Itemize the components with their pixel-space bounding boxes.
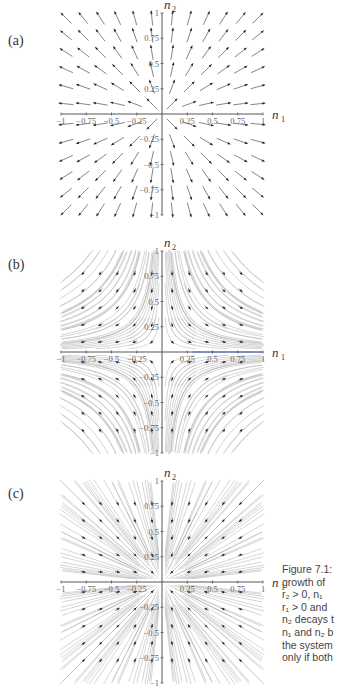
svg-text:2: 2 bbox=[172, 243, 176, 252]
svg-text:2: 2 bbox=[172, 5, 176, 14]
svg-text:0.75: 0.75 bbox=[144, 33, 159, 43]
svg-text:−0.75: −0.75 bbox=[76, 116, 96, 126]
svg-text:−0.5: −0.5 bbox=[144, 628, 159, 638]
svg-text:n: n bbox=[272, 107, 279, 122]
svg-text:0.75: 0.75 bbox=[230, 354, 245, 364]
svg-text:2: 2 bbox=[172, 473, 176, 482]
svg-text:−0.75: −0.75 bbox=[76, 584, 96, 594]
svg-text:1: 1 bbox=[155, 8, 159, 18]
caption-line: growth of bbox=[282, 576, 350, 589]
svg-text:0.5: 0.5 bbox=[148, 59, 159, 69]
svg-text:1: 1 bbox=[155, 246, 159, 256]
caption-line: r₁ > 0 and bbox=[282, 601, 350, 614]
svg-text:−0.25: −0.25 bbox=[127, 116, 147, 126]
svg-text:0.75: 0.75 bbox=[144, 501, 159, 511]
svg-text:0.75: 0.75 bbox=[230, 584, 245, 594]
svg-text:−0.25: −0.25 bbox=[127, 584, 147, 594]
svg-text:0.25: 0.25 bbox=[180, 116, 195, 126]
caption-line: n₂ decays t bbox=[282, 613, 350, 626]
svg-text:0.5: 0.5 bbox=[207, 116, 218, 126]
svg-text:−0.75: −0.75 bbox=[76, 354, 96, 364]
svg-text:−0.25: −0.25 bbox=[139, 134, 159, 144]
svg-text:−0.25: −0.25 bbox=[139, 372, 159, 382]
caption-line: n₁ and n₂ b bbox=[282, 626, 350, 639]
svg-text:n: n bbox=[164, 235, 171, 250]
svg-text:0.5: 0.5 bbox=[148, 527, 159, 537]
svg-text:1: 1 bbox=[281, 353, 285, 362]
caption-line: Figure 7.1: bbox=[282, 563, 350, 576]
svg-text:−0.75: −0.75 bbox=[139, 653, 159, 663]
svg-text:−0.25: −0.25 bbox=[139, 602, 159, 612]
svg-text:0.25: 0.25 bbox=[144, 84, 159, 94]
svg-text:0.75: 0.75 bbox=[144, 271, 159, 281]
svg-text:−1: −1 bbox=[150, 210, 159, 220]
caption-line: r₂ > 0, n₁ bbox=[282, 588, 350, 601]
caption-line: the system bbox=[282, 639, 350, 652]
caption-line: only if both bbox=[282, 651, 350, 664]
svg-text:1: 1 bbox=[261, 116, 265, 126]
svg-text:−1: −1 bbox=[56, 116, 65, 126]
svg-text:n: n bbox=[272, 345, 279, 360]
svg-text:−0.5: −0.5 bbox=[144, 398, 159, 408]
svg-text:−1: −1 bbox=[56, 584, 65, 594]
svg-text:0.25: 0.25 bbox=[180, 354, 195, 364]
svg-text:−0.5: −0.5 bbox=[104, 354, 119, 364]
svg-text:−0.5: −0.5 bbox=[144, 160, 159, 170]
vector-field-plot-a: −1−0.75−0.5−0.250.250.50.75110.750.50.25… bbox=[0, 0, 350, 229]
svg-text:1: 1 bbox=[155, 476, 159, 486]
svg-text:−0.25: −0.25 bbox=[127, 354, 147, 364]
svg-text:0.25: 0.25 bbox=[144, 322, 159, 332]
svg-text:n: n bbox=[272, 575, 279, 590]
vector-field-plot-b: −1−0.75−0.5−0.250.250.50.75110.750.50.25… bbox=[0, 237, 350, 467]
svg-text:0.25: 0.25 bbox=[144, 552, 159, 562]
svg-text:0.75: 0.75 bbox=[230, 116, 245, 126]
svg-text:−1: −1 bbox=[56, 354, 65, 364]
svg-text:0.25: 0.25 bbox=[180, 584, 195, 594]
svg-text:−0.5: −0.5 bbox=[104, 584, 119, 594]
svg-text:−1: −1 bbox=[150, 678, 159, 688]
svg-text:−0.5: −0.5 bbox=[104, 116, 119, 126]
svg-text:0.5: 0.5 bbox=[207, 354, 218, 364]
svg-text:−0.75: −0.75 bbox=[139, 423, 159, 433]
svg-text:1: 1 bbox=[281, 115, 285, 124]
svg-text:0.5: 0.5 bbox=[148, 297, 159, 307]
svg-text:−1: −1 bbox=[150, 448, 159, 458]
figure-caption: Figure 7.1: growth of r₂ > 0, n₁ r₁ > 0 … bbox=[282, 563, 350, 664]
svg-text:n: n bbox=[164, 465, 171, 480]
svg-text:n: n bbox=[164, 0, 171, 12]
svg-text:1: 1 bbox=[261, 354, 265, 364]
svg-text:1: 1 bbox=[261, 584, 265, 594]
svg-text:−0.75: −0.75 bbox=[139, 185, 159, 195]
svg-text:0.5: 0.5 bbox=[207, 584, 218, 594]
